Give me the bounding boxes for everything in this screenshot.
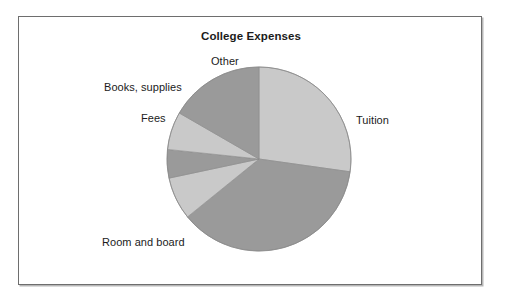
figure-root: College Expenses Other Books, supplies F… [0, 0, 506, 300]
pie-slice [259, 67, 351, 172]
pie-label-tuition: Tuition [356, 114, 389, 126]
chart-frame: College Expenses Other Books, supplies F… [18, 16, 482, 285]
pie-label-room-and-board: Room and board [102, 236, 185, 248]
pie-chart [19, 17, 483, 286]
pie-slice-group [167, 67, 351, 251]
pie-label-fees: Fees [141, 112, 166, 124]
pie-label-other: Other [211, 55, 239, 67]
pie-label-books-supplies: Books, supplies [104, 81, 182, 93]
